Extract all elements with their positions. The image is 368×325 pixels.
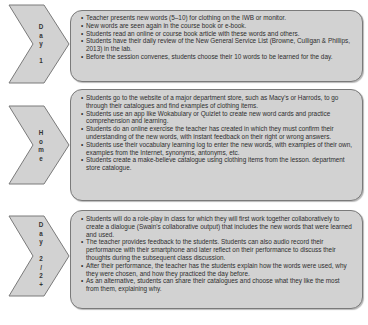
stage-box-home: Students go to the website of a major de… bbox=[70, 89, 363, 201]
list-item: Students have their daily review of the … bbox=[81, 37, 354, 53]
chevron-home: H o m e bbox=[0, 105, 70, 185]
list-item: The teacher provides feedback to the stu… bbox=[81, 238, 354, 261]
list-item: Students use their vocabulary learning l… bbox=[81, 141, 354, 157]
list-item: Students read an online or course book a… bbox=[81, 30, 354, 38]
list-item: Students do an online exercise the teach… bbox=[81, 125, 354, 141]
stage-label-day-2: D a y 2 / 2 + bbox=[34, 221, 48, 289]
stage-box-day-2: Students will do a role-play in class fo… bbox=[70, 210, 363, 309]
list-item: Before the session convenes, students ch… bbox=[81, 53, 354, 61]
stage-label-day-1: D a y 1 bbox=[34, 23, 48, 66]
list-item: After their performance, the teacher has… bbox=[81, 262, 354, 278]
activity-list: Students go to the website of a major de… bbox=[81, 94, 354, 172]
list-item: Students go to the website of a major de… bbox=[81, 94, 354, 110]
chevron-day-2: D a y 2 / 2 + bbox=[0, 215, 70, 297]
activity-list: Teacher presents new words (5–10) for cl… bbox=[81, 14, 354, 61]
list-item: New words are seen again in the course b… bbox=[81, 22, 354, 30]
stage-label-home: H o m e bbox=[34, 129, 48, 163]
list-item: Teacher presents new words (5–10) for cl… bbox=[81, 14, 354, 22]
list-item: Students create a make-believe catalogue… bbox=[81, 156, 354, 172]
list-item: Students will do a role-play in class fo… bbox=[81, 215, 354, 238]
list-item: Students use an app like Wokabulary or Q… bbox=[81, 110, 354, 126]
list-item: As an alternative, students can share th… bbox=[81, 277, 354, 293]
stage-box-day-1: Teacher presents new words (5–10) for cl… bbox=[70, 10, 363, 82]
chevron-day-1: D a y 1 bbox=[0, 4, 70, 84]
activity-list: Students will do a role-play in class fo… bbox=[81, 215, 354, 293]
